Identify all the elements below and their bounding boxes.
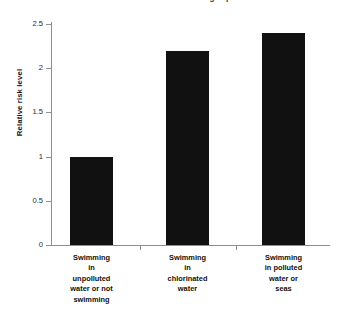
category-label-line: Swimming	[49, 253, 135, 263]
chart-title: Relative risks associated with swimming …	[0, 0, 340, 7]
x-axis-category-label: Swimminginunpollutedwater or notswimming	[49, 253, 135, 305]
category-label-line: chlorinated	[145, 274, 231, 284]
plot-area	[52, 24, 330, 245]
x-axis-line	[51, 245, 330, 246]
bar	[166, 51, 209, 245]
y-tick-label: 1	[17, 153, 43, 161]
category-label-line: water or not	[49, 284, 135, 294]
category-label-line: in polluted	[241, 263, 327, 273]
x-tick-mark	[236, 246, 237, 250]
y-tick-label: 2	[17, 64, 43, 72]
category-label-line: Swimming	[241, 253, 327, 263]
category-label-line: in	[49, 263, 135, 273]
bar-chart-figure: Relative risks associated with swimming …	[0, 0, 340, 315]
category-label-line: water	[145, 284, 231, 294]
x-tick-mark	[140, 246, 141, 250]
y-tick-label: 0.5	[17, 197, 43, 205]
x-axis-category-label: Swimmingin pollutedwater orseas	[241, 253, 327, 295]
category-label-line: seas	[241, 284, 327, 294]
y-tick-label: 2.5	[17, 20, 43, 28]
y-tick-mark	[46, 245, 52, 246]
category-label-line: unpolluted	[49, 274, 135, 284]
bar	[262, 33, 305, 245]
category-label-line: swimming	[49, 295, 135, 305]
category-label-line: in	[145, 263, 231, 273]
bar	[70, 157, 113, 245]
y-tick-label: 1.5	[17, 108, 43, 116]
category-label-line: water or	[241, 274, 327, 284]
y-tick-label: 0	[17, 241, 43, 249]
category-label-line: Swimming	[145, 253, 231, 263]
x-axis-category-label: Swimminginchlorinatedwater	[145, 253, 231, 295]
